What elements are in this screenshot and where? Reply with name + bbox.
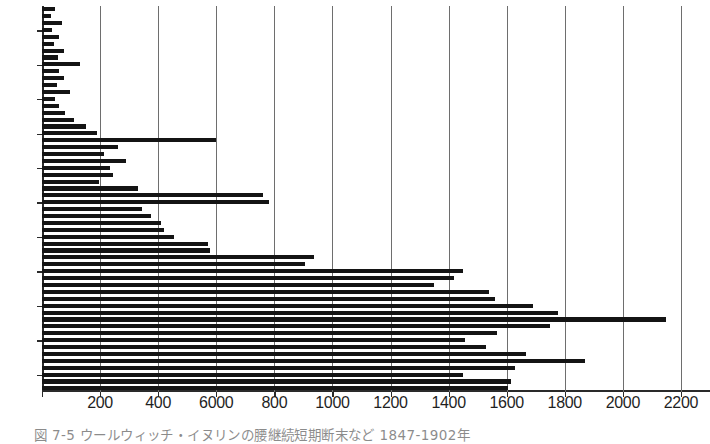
bar-1876: [42, 207, 142, 211]
bar-1864: [42, 124, 86, 128]
bar-1868: [42, 152, 104, 156]
y-tick-mark-1895: [37, 340, 42, 341]
bar-1887: [42, 283, 434, 287]
bar-1889: [42, 297, 495, 301]
y-tick-mark-1875: [37, 202, 42, 203]
bar-1854: [42, 55, 58, 59]
bar-1861: [42, 104, 59, 108]
bar-1883: [42, 255, 314, 259]
gridline-1800: [565, 6, 566, 392]
y-tick-mark-1890: [37, 306, 42, 307]
bar-1892: [42, 317, 666, 321]
bar-1860: [42, 97, 55, 101]
x-axis-line: [42, 390, 710, 392]
y-tick-mark-1880: [37, 237, 42, 238]
bar-1879: [42, 228, 164, 232]
bar-1856: [42, 69, 59, 73]
bar-1872: [42, 180, 99, 184]
bar-1855: [42, 62, 80, 66]
bar-1898: [42, 359, 585, 363]
bar-1891: [42, 311, 558, 315]
bar-1895: [42, 338, 465, 342]
bar-1850: [42, 28, 52, 32]
bar-1902: [42, 386, 508, 390]
bar-1893: [42, 324, 550, 328]
x-tick-label-2200: 2200: [641, 394, 710, 412]
bar-1857: [42, 76, 64, 80]
bar-1875: [42, 200, 269, 204]
bar-1886: [42, 276, 454, 280]
bar-1859: [42, 90, 70, 94]
bar-1884: [42, 262, 305, 266]
y-tick-mark-1870: [37, 168, 42, 169]
bar-1866: [42, 138, 216, 142]
x-tick-mark-0: [42, 392, 43, 397]
y-tick-mark-1900: [37, 375, 42, 376]
bar-1869: [42, 159, 126, 163]
bar-1874: [42, 193, 263, 197]
bar-1885: [42, 269, 463, 273]
bar-1894: [42, 331, 497, 335]
bar-1871: [42, 173, 113, 177]
bar-1865: [42, 131, 97, 135]
y-tick-mark-1850: [37, 30, 42, 31]
gridline-1600: [507, 6, 508, 392]
figure-caption: 図 7-5 ウールウィッチ・イヌリンの腰継続短期断末など 1847-1902年: [34, 424, 470, 444]
bar-1847: [42, 7, 55, 11]
y-tick-mark-1885: [37, 271, 42, 272]
y-tick-mark-1860: [37, 99, 42, 100]
bar-1881: [42, 242, 208, 246]
bar-1896: [42, 345, 486, 349]
bar-1888: [42, 290, 489, 294]
bar-1901: [42, 379, 511, 383]
y-tick-mark-1855: [37, 65, 42, 66]
bar-1852: [42, 42, 54, 46]
bar-1848: [42, 14, 51, 18]
bar-1870: [42, 166, 110, 170]
bar-1849: [42, 21, 62, 25]
bar-1858: [42, 83, 57, 87]
bar-1900: [42, 373, 463, 377]
gridline-2000: [623, 6, 624, 392]
bar-1890: [42, 304, 533, 308]
bar-1878: [42, 221, 161, 225]
bar-1880: [42, 235, 174, 239]
gridline-2200: [681, 6, 682, 392]
plot-area: [42, 6, 710, 392]
bar-1882: [42, 248, 210, 252]
y-tick-mark-1865: [37, 134, 42, 135]
bar-1863: [42, 118, 74, 122]
bar-1877: [42, 214, 151, 218]
bar-1862: [42, 111, 65, 115]
bar-1873: [42, 186, 138, 190]
bar-1853: [42, 49, 64, 53]
bar-1897: [42, 352, 526, 356]
bar-1899: [42, 366, 515, 370]
bar-1867: [42, 145, 118, 149]
bar-1851: [42, 35, 59, 39]
